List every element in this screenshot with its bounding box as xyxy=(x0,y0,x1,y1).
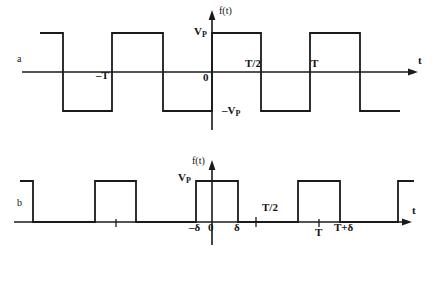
panel-b-Tplusdelta-tick-label: T+δ xyxy=(334,222,353,233)
panel-a-neg-vp-text: –V xyxy=(222,104,235,116)
panel-a-vp-label: VP xyxy=(194,26,207,40)
panel-a-negT-tick-label: –T xyxy=(96,70,109,81)
panel-b-vp-subscript: P xyxy=(186,176,191,185)
panel-a-T-tick-label: T xyxy=(311,58,318,69)
panel-b-delta-tick-label: δ xyxy=(234,222,240,233)
panel-a-neg-vp-label: –VP xyxy=(222,105,240,119)
figure-root: a f(t) t VP 0 –VP –T T/2 T b f(t) t VP –… xyxy=(0,0,434,292)
panel-a-t-axis-label: t xyxy=(418,55,422,66)
panel-a-letter: a xyxy=(17,53,21,64)
panel-b-Thalf-tick-label: T/2 xyxy=(262,202,278,213)
panel-b-letter: b xyxy=(17,197,22,208)
panel-a-t-axis xyxy=(22,69,418,76)
panel-b-vp-text: V xyxy=(178,171,186,183)
panel-b-neg-delta-tick-label: –δ xyxy=(189,222,200,233)
panel-b-group xyxy=(14,160,414,245)
panel-a-neg-vp-subscript: P xyxy=(235,109,240,118)
panel-a-origin-label: 0 xyxy=(203,72,209,83)
panel-a-group xyxy=(22,10,418,130)
panel-b-t-axis-label: t xyxy=(412,205,416,216)
panel-b-vp-label: VP xyxy=(178,172,191,186)
waveform-figure-svg xyxy=(0,0,434,292)
panel-a-f-axis-label: f(t) xyxy=(219,5,232,16)
panel-b-origin-label: 0 xyxy=(208,222,214,233)
panel-b-T-tick-label: T xyxy=(315,227,322,238)
panel-a-Thalf-tick-label: T/2 xyxy=(245,58,261,69)
panel-a-vp-subscript: P xyxy=(202,30,207,39)
panel-a-vp-text: V xyxy=(194,25,202,37)
panel-b-waveform xyxy=(20,181,414,222)
panel-b-f-axis-label: f(t) xyxy=(192,155,205,166)
